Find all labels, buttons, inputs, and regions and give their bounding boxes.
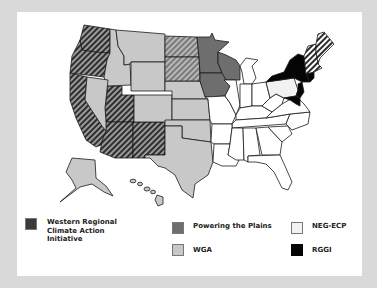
legend-label-wga: WGA (193, 246, 212, 255)
state-wyoming (131, 62, 165, 91)
state-michigan (240, 58, 258, 84)
legend-label-rggi: RGGI (312, 246, 332, 255)
state-hawaii (130, 179, 163, 206)
legend-swatch-neg-ecp (291, 222, 303, 234)
legend-label-powering-the-plains: Powering the Plains (193, 222, 272, 231)
state-utah (105, 86, 134, 122)
legend-swatch-western-regional (25, 218, 37, 230)
legend-item-neg-ecp: NEG-ECP (291, 222, 346, 234)
state-new-york (266, 54, 310, 82)
legend-label-neg-ecp: NEG-ECP (312, 222, 346, 231)
legend-swatch-wga (172, 244, 184, 256)
state-florida (248, 155, 292, 190)
legend-item-rggi: RGGI (291, 244, 332, 256)
state-washington (80, 25, 110, 53)
state-north-carolina (286, 112, 310, 130)
state-north-dakota (165, 36, 199, 57)
state-arkansas (211, 124, 232, 144)
legend-swatch-powering-the-plains (172, 222, 184, 234)
state-alaska (60, 158, 113, 202)
state-indiana (240, 84, 252, 108)
legend-item-powering-the-plains: Powering the Plains (172, 222, 272, 234)
legend-item-wga: WGA (172, 244, 212, 256)
state-kansas (172, 99, 210, 120)
state-south-dakota (165, 57, 200, 81)
legend-item-western-regional: Western Regional Climate Action Initiati… (25, 218, 117, 244)
state-new-mexico (133, 122, 165, 158)
state-maine (316, 32, 334, 64)
legend-label-western-regional: Western Regional Climate Action Initiati… (47, 218, 117, 244)
legend-swatch-rggi (291, 244, 303, 256)
state-colorado (134, 95, 172, 122)
